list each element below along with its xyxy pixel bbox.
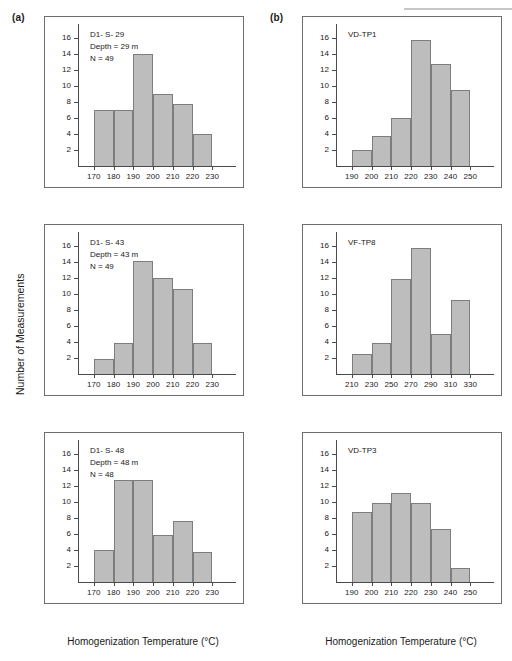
- histogram-bar: [114, 480, 134, 582]
- y-tick: [332, 246, 336, 247]
- plot-area: 246810121416170180190200210220230D1- S- …: [44, 224, 244, 396]
- y-tick-label: 10: [304, 81, 329, 90]
- y-tick-label: 8: [46, 513, 71, 522]
- x-tick: [153, 374, 154, 378]
- y-tick: [332, 38, 336, 39]
- y-tick-label: 6: [46, 529, 71, 538]
- y-tick: [74, 102, 78, 103]
- y-tick-label: 4: [304, 545, 329, 554]
- plot-area: 246810121416190200210220230240250VD-TP3: [302, 432, 502, 604]
- x-tick: [391, 582, 392, 586]
- x-tick: [193, 374, 194, 378]
- y-tick-label: 14: [304, 465, 329, 474]
- y-tick: [74, 534, 78, 535]
- chart-vf-tp8: 246810121416210230250270290310330VF-TP8: [302, 224, 502, 396]
- histogram-bar: [94, 359, 114, 374]
- y-tick-label: 2: [46, 145, 71, 154]
- histogram-bar: [431, 529, 451, 582]
- y-tick-label: 16: [304, 241, 329, 250]
- y-tick-label: 16: [46, 33, 71, 42]
- chart-annotation: N = 48: [90, 469, 114, 480]
- y-tick-label: 10: [304, 497, 329, 506]
- y-tick-label: 12: [46, 273, 71, 282]
- y-tick-label: 2: [46, 353, 71, 362]
- y-tick: [74, 246, 78, 247]
- y-tick: [74, 54, 78, 55]
- y-tick-label: 2: [304, 145, 329, 154]
- x-tick: [431, 374, 432, 378]
- y-tick-label: 2: [304, 353, 329, 362]
- x-tick: [153, 582, 154, 586]
- histogram-bar: [173, 521, 193, 582]
- y-tick: [332, 550, 336, 551]
- x-tick: [94, 374, 95, 378]
- y-tick-label: 12: [46, 65, 71, 74]
- y-axis-line: [78, 24, 79, 166]
- x-tick: [451, 166, 452, 170]
- x-tick: [470, 166, 471, 170]
- y-tick-label: 10: [46, 289, 71, 298]
- x-tick: [153, 166, 154, 170]
- y-tick-label: 14: [46, 257, 71, 266]
- histogram-bar: [193, 552, 213, 582]
- x-tick: [352, 374, 353, 378]
- chart-annotation: VD-TP3: [348, 445, 376, 456]
- y-tick: [332, 262, 336, 263]
- y-tick-label: 6: [46, 321, 71, 330]
- chart-d1-s-29: 246810121416170180190200210220230D1- S- …: [44, 16, 244, 188]
- histogram-bar: [193, 343, 213, 374]
- x-tick: [193, 166, 194, 170]
- histogram-bar: [352, 512, 372, 582]
- histogram-bar: [391, 493, 411, 582]
- histogram-bar: [451, 568, 471, 582]
- y-tick-label: 12: [304, 65, 329, 74]
- y-tick: [74, 262, 78, 263]
- y-tick-label: 14: [304, 257, 329, 266]
- x-tick-label: 230: [198, 380, 226, 389]
- y-tick: [74, 518, 78, 519]
- histogram-bar: [352, 150, 372, 166]
- y-tick: [74, 86, 78, 87]
- y-tick-label: 8: [304, 305, 329, 314]
- y-tick-label: 4: [46, 337, 71, 346]
- x-tick-label: 250: [456, 588, 484, 597]
- x-tick: [470, 582, 471, 586]
- y-tick: [332, 454, 336, 455]
- histogram-bar: [411, 40, 431, 166]
- y-tick-label: 4: [46, 129, 71, 138]
- y-tick: [74, 38, 78, 39]
- y-tick-label: 10: [46, 497, 71, 506]
- x-tick: [212, 166, 213, 170]
- chart-annotation: Depth = 48 m: [90, 457, 138, 468]
- histogram-bar: [114, 110, 134, 166]
- y-tick-label: 16: [46, 449, 71, 458]
- y-tick: [332, 118, 336, 119]
- histogram-bar: [372, 503, 392, 582]
- y-tick: [74, 486, 78, 487]
- y-tick: [74, 310, 78, 311]
- x-tick: [173, 166, 174, 170]
- chart-d1-s-48: 246810121416170180190200210220230D1- S- …: [44, 432, 244, 604]
- y-tick: [332, 150, 336, 151]
- y-tick: [74, 70, 78, 71]
- axis-title-x-right: Homogenization Temperature (°C): [296, 636, 506, 647]
- panel-label-a: (a): [12, 12, 25, 23]
- histogram-bar: [431, 64, 451, 166]
- chart-annotation: N = 49: [90, 261, 114, 272]
- plot-area: 246810121416170180190200210220230D1- S- …: [44, 432, 244, 604]
- y-tick: [332, 86, 336, 87]
- y-tick-label: 12: [304, 481, 329, 490]
- y-tick-label: 14: [304, 49, 329, 58]
- chart-vd-tp1: 246810121416190200210220230240250VD-TP1: [302, 16, 502, 188]
- y-tick-label: 8: [46, 97, 71, 106]
- y-tick: [332, 534, 336, 535]
- y-tick: [332, 502, 336, 503]
- chart-vd-tp3: 246810121416190200210220230240250VD-TP3: [302, 432, 502, 604]
- x-tick: [173, 374, 174, 378]
- x-tick: [391, 374, 392, 378]
- histogram-bar: [133, 261, 153, 374]
- x-tick: [411, 166, 412, 170]
- chart-annotation: D1- S- 29: [90, 29, 124, 40]
- chart-annotation: Depth = 43 m: [90, 249, 138, 260]
- y-tick: [74, 294, 78, 295]
